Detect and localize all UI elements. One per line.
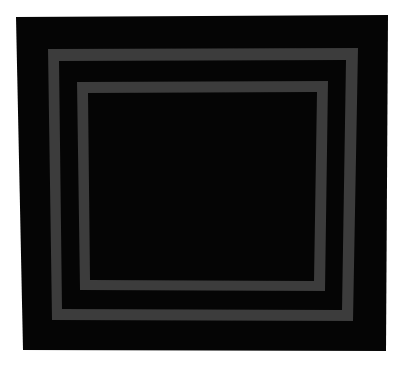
quilt [0,0,407,368]
quilt-body [16,15,388,351]
